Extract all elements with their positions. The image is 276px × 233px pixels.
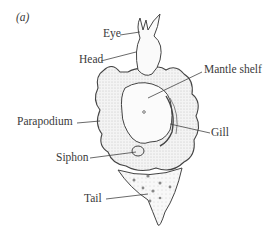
- figure: (a) Eye Head Mantle shelf Parapodium Gil…: [0, 0, 276, 233]
- label-siphon: Siphon: [56, 152, 89, 164]
- label-eye: Eye: [103, 28, 121, 40]
- panel-label: (a): [16, 12, 29, 24]
- label-parapodium: Parapodium: [17, 116, 73, 128]
- label-mantle-shelf: Mantle shelf: [204, 64, 262, 76]
- label-tail: Tail: [84, 193, 102, 205]
- label-head: Head: [79, 54, 103, 66]
- label-gill: Gill: [211, 127, 229, 139]
